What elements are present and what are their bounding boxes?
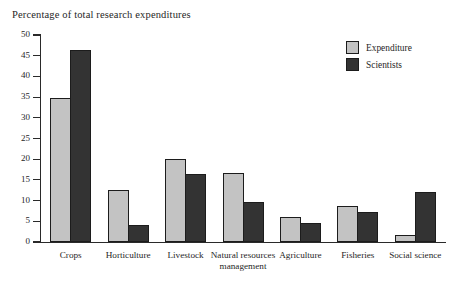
bar-expenditure <box>337 206 358 242</box>
y-tick-label-30: 30 <box>8 113 30 122</box>
y-tick-label-20: 20 <box>8 154 30 163</box>
bar-group <box>106 35 150 242</box>
bar-group <box>49 35 93 242</box>
y-tick-20 <box>33 159 40 160</box>
bar-scientists <box>415 192 436 243</box>
y-tick-25 <box>33 138 40 139</box>
legend-swatch-expenditure <box>346 41 359 54</box>
y-tick-5 <box>33 221 40 222</box>
bar-scientists <box>185 174 206 242</box>
bar-expenditure <box>280 217 301 242</box>
bar-scientists <box>300 223 321 242</box>
bar-expenditure <box>395 235 416 242</box>
bar-scientists <box>243 202 264 242</box>
bar-expenditure <box>108 190 129 242</box>
legend-item-expenditure: Expenditure <box>346 40 412 55</box>
y-tick-label-40: 40 <box>8 71 30 80</box>
y-tick-label-45: 45 <box>8 51 30 60</box>
bar-group <box>278 35 322 242</box>
y-tick-label-25: 25 <box>8 134 30 143</box>
y-tick-35 <box>33 97 40 98</box>
y-tick-10 <box>33 200 40 201</box>
y-tick-15 <box>33 179 40 180</box>
y-tick-0 <box>33 241 40 242</box>
bar-chart: Percentage of total research expenditure… <box>0 0 450 301</box>
legend-swatch-scientists <box>346 58 359 71</box>
x-axis-line <box>40 242 446 243</box>
legend-item-scientists: Scientists <box>346 57 412 72</box>
y-tick-label-35: 35 <box>8 92 30 101</box>
y-tick-label-0: 0 <box>8 237 30 246</box>
bar-expenditure <box>165 159 186 242</box>
y-tick-50 <box>33 34 40 35</box>
bar-expenditure <box>223 173 244 242</box>
bar-group <box>164 35 208 242</box>
bar-expenditure <box>50 98 71 242</box>
y-tick-40 <box>33 76 40 77</box>
chart-title: Percentage of total research expenditure… <box>12 9 191 20</box>
y-tick-label-10: 10 <box>8 196 30 205</box>
y-tick-label-50: 50 <box>8 30 30 39</box>
legend: Expenditure Scientists <box>346 40 412 74</box>
y-tick-45 <box>33 55 40 56</box>
bar-group <box>221 35 265 242</box>
bar-scientists <box>357 212 378 242</box>
y-tick-30 <box>33 117 40 118</box>
legend-label-scientists: Scientists <box>366 60 402 70</box>
legend-label-expenditure: Expenditure <box>366 43 412 53</box>
y-tick-label-15: 15 <box>8 175 30 184</box>
bar-scientists <box>128 225 149 242</box>
x-axis-label: Social science <box>381 250 449 261</box>
bar-scientists <box>70 50 91 242</box>
y-tick-label-5: 5 <box>8 216 30 225</box>
